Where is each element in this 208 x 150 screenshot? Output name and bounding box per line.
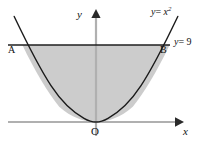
origin-label: O	[91, 126, 99, 137]
x-axis-label: x	[183, 126, 188, 137]
line-equation-value: = 9	[178, 36, 191, 47]
parabola-equation-label: y= x2	[151, 6, 171, 17]
parabola-equation-equals: =	[155, 6, 163, 17]
point-a-label: A	[8, 45, 15, 55]
parabola-equation-exponent: 2	[168, 5, 171, 12]
y-axis-label: y	[77, 9, 82, 20]
point-b-label: B	[160, 45, 167, 55]
math-figure: y x O A B y= x2 y= 9	[0, 0, 208, 150]
line-equation-label: y= 9	[174, 37, 192, 47]
y-axis-arrowhead	[91, 9, 100, 18]
figure-canvas	[0, 0, 208, 150]
